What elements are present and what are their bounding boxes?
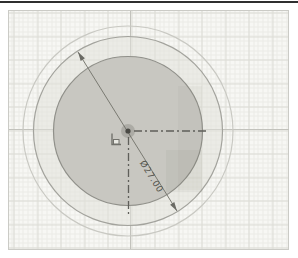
center-point[interactable] bbox=[121, 124, 135, 138]
constraint-box bbox=[114, 140, 120, 145]
profile-shade-patch bbox=[166, 150, 202, 192]
center-point-dot-icon bbox=[125, 128, 130, 133]
page: Ø27.00 bbox=[0, 0, 298, 258]
sketch-canvas[interactable]: Ø27.00 bbox=[0, 0, 298, 258]
